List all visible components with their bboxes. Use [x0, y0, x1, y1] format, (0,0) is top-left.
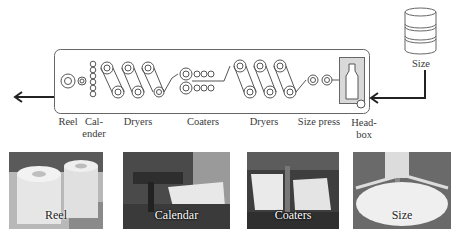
coater-section-icon: [180, 66, 230, 94]
label-coaters: Coaters: [180, 116, 226, 128]
label-calender: Cal- ender: [80, 116, 108, 140]
reel-roll-icon: [61, 74, 86, 88]
photo-size: Size: [353, 152, 451, 229]
photo-caption-calendar: Calendar: [123, 208, 230, 223]
label-dryers-2: Dryers: [244, 116, 284, 128]
size-feed-arrow-icon: [371, 70, 425, 103]
tank-label: Size: [407, 58, 435, 70]
photo-coaters: Coaters: [247, 152, 339, 229]
label-headbox: Head- box: [349, 117, 379, 141]
calender-stack-icon: [90, 61, 96, 97]
dryer-section-2-icon: [234, 60, 306, 98]
label-dryers-1: Dryers: [118, 116, 158, 128]
photo-caption-reel: Reel: [9, 208, 103, 223]
headbox-icon: [340, 58, 366, 109]
output-arrow-icon: [15, 92, 54, 102]
dryer-section-1-icon: [101, 62, 178, 98]
photo-caption-size: Size: [353, 208, 451, 223]
photo-calendar: Calendar: [123, 152, 230, 229]
photo-caption-coaters: Coaters: [247, 208, 339, 223]
paper-machine-diagram: Size Reel Cal- ender Dryers Coaters Drye…: [0, 0, 467, 150]
label-size-press: Size press: [294, 116, 344, 128]
size-press-icon: [308, 75, 339, 85]
size-tank-icon: [405, 8, 436, 54]
photo-reel: Reel: [9, 152, 103, 229]
label-reel: Reel: [54, 116, 82, 128]
